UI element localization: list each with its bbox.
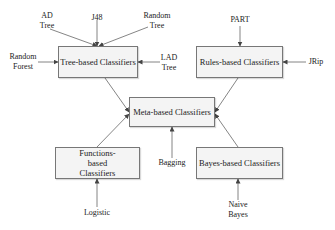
label-ad-tree: AD Tree — [34, 11, 60, 30]
node-label: Bayes-based Classifiers — [199, 158, 280, 168]
edge-bayes-meta — [215, 114, 238, 147]
label-naive-bayes: Naive Bayes — [226, 200, 250, 219]
node-label: Tree-based Classifiers — [60, 57, 135, 67]
label-random-tree: Random Tree — [140, 11, 174, 30]
node-label: Functions-based Classifiers — [70, 148, 125, 178]
node-functions-based-classifiers: Functions-based Classifiers — [55, 147, 140, 179]
edge-adtree-tree — [50, 29, 97, 46]
label-part: PART — [227, 15, 253, 25]
node-bayes-based-classifiers: Bayes-based Classifiers — [196, 147, 283, 179]
node-tree-based-classifiers: Tree-based Classifiers — [58, 46, 138, 78]
label-random-forest: Random Forest — [6, 52, 40, 71]
node-meta-based-classifiers: Meta-based Classifiers — [129, 97, 215, 127]
label-lad-tree: LAD Tree — [159, 53, 179, 72]
node-label: Meta-based Classifiers — [133, 107, 211, 117]
label-jrip: JRip — [306, 57, 326, 67]
edge-rules-meta — [215, 78, 238, 112]
label-j48: J48 — [88, 13, 106, 23]
node-label: Rules-based Classifiers — [200, 57, 280, 67]
label-logistic: Logistic — [81, 208, 113, 218]
label-bagging: Bagging — [156, 158, 188, 168]
edge-tree-meta — [105, 78, 129, 112]
node-rules-based-classifiers: Rules-based Classifiers — [196, 46, 283, 78]
edge-functions-meta — [97, 114, 129, 147]
